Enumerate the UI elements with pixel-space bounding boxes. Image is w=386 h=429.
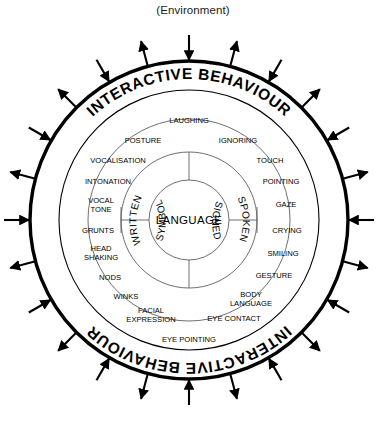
core-label: LANGUAGE bbox=[156, 214, 222, 226]
arrow-outward bbox=[230, 375, 237, 399]
arrow-inward bbox=[328, 300, 350, 313]
ring-label: SHAKING bbox=[84, 253, 118, 262]
arrow-outward bbox=[302, 333, 320, 351]
ring-label: POSTURE bbox=[125, 136, 162, 145]
arrow-outward bbox=[344, 172, 368, 179]
ring-label: NODS bbox=[99, 273, 121, 282]
arrow-outward bbox=[230, 41, 237, 65]
arrow-outward bbox=[344, 261, 368, 268]
arrow-inward bbox=[269, 60, 282, 82]
ring-label: CRYING bbox=[272, 226, 301, 235]
arrow-outward bbox=[10, 172, 34, 179]
arrow-inward bbox=[269, 359, 282, 381]
ring-label: HEAD bbox=[90, 244, 112, 253]
arrow-inward bbox=[29, 128, 51, 141]
ring-label: TOUCH bbox=[257, 156, 284, 165]
ring-label: INTONATION bbox=[85, 177, 131, 186]
ring-label: POINTING bbox=[263, 177, 300, 186]
arrow-outward bbox=[58, 89, 76, 107]
ring-label: GESTURE bbox=[256, 271, 293, 280]
arrow-outward bbox=[141, 41, 148, 65]
ring-label: VOCALISATION bbox=[90, 156, 146, 165]
arrow-inward bbox=[97, 60, 110, 82]
ring-label: FACIAL bbox=[138, 306, 164, 315]
arrow-outward bbox=[58, 333, 76, 351]
arrow-inward bbox=[328, 128, 350, 141]
ring-label: GRUNTS bbox=[82, 226, 114, 235]
figure-canvas: (Environment) bbox=[0, 0, 386, 429]
ring-label: BODY bbox=[240, 290, 262, 299]
ring-label: EXPRESSION bbox=[126, 315, 175, 324]
ring-label: VOCAL bbox=[88, 196, 114, 205]
ring-label: EYE CONTACT bbox=[207, 314, 261, 323]
arrow-outward bbox=[302, 89, 320, 107]
ring-label: TONE bbox=[91, 205, 112, 214]
arrow-inward bbox=[97, 359, 110, 381]
ring-label: IGNORING bbox=[219, 136, 257, 145]
ring-label: LAUGHING bbox=[169, 116, 209, 125]
ring-label: GAZE bbox=[276, 200, 297, 209]
arrow-inward bbox=[29, 300, 51, 313]
ring-label: WINKS bbox=[114, 292, 139, 301]
ring-label: SMILING bbox=[267, 249, 298, 258]
arrow-outward bbox=[10, 261, 34, 268]
interactive-behaviour-diagram: INTERACTIVE BEHAVIOUR INTERACTIVE BEHAVI… bbox=[0, 0, 386, 429]
ring-label: EYE POINTING bbox=[162, 335, 216, 344]
arrow-outward bbox=[141, 375, 148, 399]
ring-label: LANGUAGE bbox=[230, 299, 272, 308]
